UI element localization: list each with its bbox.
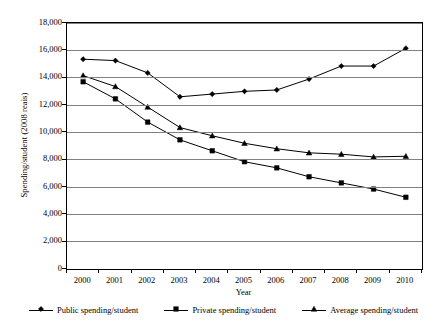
y-axis-tickmark <box>62 213 66 214</box>
plot-area <box>66 22 423 270</box>
data-point-marker <box>339 181 344 186</box>
y-axis-tick-label: 10,000 <box>28 127 62 136</box>
series-3 <box>80 73 408 159</box>
x-axis-tickmark <box>131 269 132 273</box>
x-axis-tickmark <box>227 269 228 273</box>
data-point-marker <box>339 63 344 68</box>
data-point-marker <box>210 91 215 96</box>
data-point-marker <box>177 125 183 130</box>
data-point-marker <box>242 89 247 94</box>
data-point-marker <box>274 87 279 92</box>
y-axis-tick-label: 0 <box>28 264 62 273</box>
series-2 <box>81 79 408 199</box>
y-axis-tick-label: 2,000 <box>28 236 62 245</box>
square-marker-icon <box>164 305 188 315</box>
y-axis-tick-label: 18,000 <box>28 18 62 27</box>
data-point-marker <box>210 148 215 153</box>
plot-inner <box>67 23 422 269</box>
data-point-marker <box>113 58 118 63</box>
gridline <box>67 50 422 51</box>
data-point-marker <box>307 174 312 179</box>
legend-marker <box>311 306 317 312</box>
legend-marker <box>38 306 44 312</box>
gridline <box>67 77 422 78</box>
x-axis-tickmarks <box>66 269 423 274</box>
data-point-marker <box>113 97 118 102</box>
x-axis-tickmark <box>324 269 325 273</box>
diamond-marker-icon <box>29 305 53 315</box>
y-axis-tickmark <box>62 186 66 187</box>
series-line <box>83 82 406 197</box>
data-point-marker <box>404 195 409 200</box>
x-axis-tickmark <box>356 269 357 273</box>
x-axis-tickmark <box>98 269 99 273</box>
y-axis-tick-label: 12,000 <box>28 100 62 109</box>
y-axis-tickmark <box>62 104 66 105</box>
y-axis-tickmark <box>62 22 66 23</box>
y-axis-tick-label: 4,000 <box>28 209 62 218</box>
y-axis-tickmark <box>62 159 66 160</box>
gridline <box>67 187 422 188</box>
legend-label: Public spending/student <box>57 305 138 315</box>
gridline <box>67 241 422 242</box>
y-axis-tickmark <box>62 241 66 242</box>
x-axis-tickmark <box>163 269 164 273</box>
x-axis-tick-label: 2010 <box>385 275 425 285</box>
data-point-marker <box>81 79 86 84</box>
gridline <box>67 105 422 106</box>
x-axis-tickmark <box>66 269 67 273</box>
data-point-marker <box>145 120 150 125</box>
gridline <box>67 214 422 215</box>
y-axis-tickmark <box>62 268 66 269</box>
legend-item[interactable]: Public spending/student <box>29 305 138 315</box>
data-point-marker <box>371 63 376 68</box>
y-axis-tick-label: 16,000 <box>28 45 62 54</box>
series-1 <box>81 46 409 100</box>
x-axis-title: Year <box>66 287 421 297</box>
y-axis-tick-labels: 02,0004,0006,0008,00010,00012,00014,0001… <box>28 0 62 323</box>
legend-item[interactable]: Private spending/student <box>164 305 276 315</box>
gridline <box>67 23 422 24</box>
gridline <box>67 132 422 133</box>
triangle-marker-icon <box>302 305 326 315</box>
legend-marker <box>173 306 179 312</box>
gridline <box>67 159 422 160</box>
line-chart-figure: Spending/student (2008 reais) 02,0004,00… <box>0 0 447 323</box>
y-axis-tick-label: 6,000 <box>28 182 62 191</box>
y-axis-tickmark <box>62 77 66 78</box>
y-axis-tickmark <box>62 49 66 50</box>
chart-legend: Public spending/studentPrivate spending/… <box>0 303 447 317</box>
legend-item[interactable]: Average spending/student <box>302 305 418 315</box>
y-axis-tickmark <box>62 131 66 132</box>
legend-label: Average spending/student <box>330 305 418 315</box>
data-point-marker <box>274 166 279 171</box>
x-axis-tickmark <box>421 269 422 273</box>
data-point-marker <box>81 57 86 62</box>
legend-label: Private spending/student <box>192 305 276 315</box>
x-axis-tick-labels: 2000200120022003200420052006200720082009… <box>66 275 421 287</box>
x-axis-tickmark <box>389 269 390 273</box>
y-axis-tick-label: 8,000 <box>28 154 62 163</box>
data-point-marker <box>178 138 183 143</box>
x-axis-tickmark <box>195 269 196 273</box>
x-axis-tickmark <box>292 269 293 273</box>
series-layer <box>67 23 422 269</box>
y-axis-tick-label: 14,000 <box>28 72 62 81</box>
x-axis-tickmark <box>260 269 261 273</box>
